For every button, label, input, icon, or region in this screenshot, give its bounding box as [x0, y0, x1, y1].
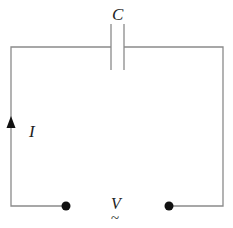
- right-wire: [124, 47, 223, 206]
- current-label: I: [29, 123, 35, 140]
- left-wire: [11, 47, 111, 206]
- current-arrow-icon: [7, 116, 16, 128]
- circuit-wires: [0, 0, 233, 228]
- terminal-left: [62, 202, 71, 211]
- terminal-right: [165, 202, 174, 211]
- capacitor-label: C: [112, 6, 123, 23]
- circuit-diagram: C I V ~: [0, 0, 233, 228]
- ac-symbol: ~: [111, 211, 119, 226]
